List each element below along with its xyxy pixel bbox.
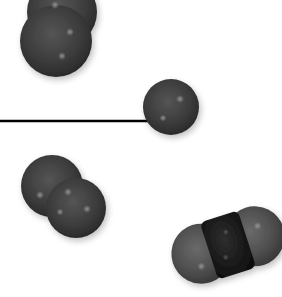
single-atom bbox=[143, 79, 199, 135]
diatomic-molecule-bottom-left bbox=[21, 155, 106, 238]
diatomic-molecule-top bbox=[20, 0, 97, 77]
triatomic-molecule-bottom-right bbox=[164, 199, 282, 292]
molecule-scene bbox=[0, 0, 282, 297]
